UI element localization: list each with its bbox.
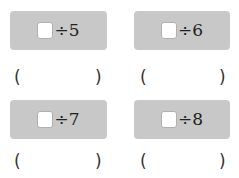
open-paren: ( xyxy=(140,153,147,170)
close-paren: ) xyxy=(219,153,226,170)
divide-symbol: ÷ xyxy=(54,111,68,128)
answer-field-4[interactable] xyxy=(150,153,218,171)
open-paren: ( xyxy=(14,153,21,170)
expression: ÷ 5 xyxy=(37,22,79,39)
expression: ÷ 8 xyxy=(161,111,203,128)
answer-field-3[interactable] xyxy=(24,153,94,171)
close-paren: ) xyxy=(95,69,102,86)
answer-field-2[interactable] xyxy=(150,69,218,87)
expression: ÷ 6 xyxy=(161,22,203,39)
blank-box-input[interactable] xyxy=(161,111,177,128)
divisor: 8 xyxy=(192,111,203,128)
expression-card-1: ÷ 5 xyxy=(10,11,107,50)
open-paren: ( xyxy=(140,69,147,86)
divisor: 7 xyxy=(69,111,80,128)
blank-box-input[interactable] xyxy=(161,22,177,39)
blank-box-input[interactable] xyxy=(37,22,53,39)
close-paren: ) xyxy=(219,69,226,86)
answer-field-1[interactable] xyxy=(24,69,94,87)
divide-symbol: ÷ xyxy=(54,22,68,39)
expression-card-2: ÷ 6 xyxy=(134,11,230,50)
close-paren: ) xyxy=(95,153,102,170)
blank-box-input[interactable] xyxy=(37,111,53,128)
divisor: 5 xyxy=(69,22,80,39)
divide-symbol: ÷ xyxy=(178,22,192,39)
divisor: 6 xyxy=(192,22,203,39)
divide-symbol: ÷ xyxy=(178,111,192,128)
expression-card-4: ÷ 8 xyxy=(134,100,230,139)
expression: ÷ 7 xyxy=(37,111,79,128)
open-paren: ( xyxy=(14,69,21,86)
expression-card-3: ÷ 7 xyxy=(10,100,107,139)
